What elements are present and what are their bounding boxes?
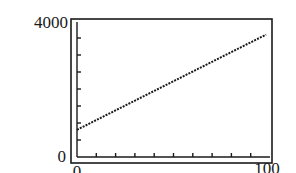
y-min-label: 0 [58, 147, 67, 166]
outer-frame [71, 19, 272, 163]
x-min-label: 0 [73, 162, 82, 173]
data-line [77, 35, 266, 130]
x-max-label: 100 [254, 159, 280, 173]
y-max-label: 4000 [34, 13, 68, 32]
line-chart: 4000 0 0 100 [0, 0, 296, 173]
axes [77, 22, 270, 157]
